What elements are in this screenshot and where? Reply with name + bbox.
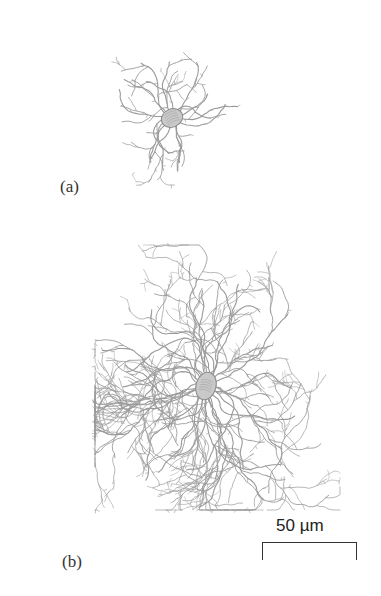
dendrite-branch — [120, 296, 127, 300]
dendrite-branch — [155, 152, 163, 180]
dendrite-branch — [142, 245, 188, 251]
dendrite-branch — [173, 404, 181, 406]
scale-bar-label: 50 µm — [276, 516, 324, 536]
dendrite-branch — [129, 308, 148, 319]
dendrite-branch — [147, 318, 195, 342]
dendrite-branch — [150, 360, 171, 397]
dendrite-branch — [247, 397, 249, 399]
dendrite-branch — [323, 481, 325, 483]
dendrite-branch — [179, 456, 182, 457]
dendrite-branch — [225, 499, 262, 510]
dendrite-branch — [245, 389, 246, 401]
dendrite-branch — [175, 125, 181, 172]
scale-bar — [262, 542, 357, 560]
dendrite-branch — [179, 277, 194, 280]
dendrite-branch — [339, 478, 340, 482]
dendrite-branch — [132, 175, 136, 182]
dendrite-branch — [179, 135, 191, 137]
dendrite-branch — [269, 439, 321, 450]
dendrite-branch — [180, 313, 190, 319]
dendrite-branch — [278, 413, 285, 439]
dendrite-branch — [243, 322, 251, 344]
dendrite-branch — [317, 506, 340, 510]
dendrite-branch — [182, 272, 183, 275]
dendrite-branch — [149, 464, 160, 485]
dendrite-branch — [144, 283, 145, 291]
dendrite-branch — [163, 165, 166, 166]
dendrite-branch — [169, 59, 192, 66]
dendrite-branch — [181, 245, 207, 282]
dendrite-branch — [229, 348, 235, 353]
dendrite-branch — [122, 116, 152, 123]
dendrite-branch — [197, 83, 205, 85]
dendrite-branch — [258, 272, 270, 274]
dendrite-branch — [178, 269, 179, 277]
dendrite-branch — [95, 457, 102, 500]
dendrite-branch — [140, 282, 148, 284]
dendrite-branch — [286, 359, 310, 400]
dendrite-branch — [153, 246, 158, 257]
dendrite-branch — [229, 473, 238, 503]
dendrite-branch — [208, 501, 242, 506]
dendrite-branch — [182, 255, 189, 259]
dendrite-branch — [95, 340, 96, 355]
dendrite-branch — [185, 466, 186, 469]
dendrite-branch — [335, 471, 340, 474]
dendrite-branch — [225, 470, 227, 472]
dendrite-branch — [167, 277, 181, 291]
dendrite-branch — [282, 423, 296, 446]
dendrite-branch — [145, 279, 167, 295]
dendrite-branch — [174, 510, 175, 513]
dendrite-branch — [157, 491, 163, 497]
dendrite-branch — [104, 489, 107, 490]
dendrite-branch — [249, 510, 250, 513]
dendrite-branch — [209, 306, 259, 376]
dendrite-branch — [144, 396, 155, 426]
dendrite-branch — [289, 487, 305, 509]
dendrite-branch — [225, 275, 237, 278]
dendrite-branch — [179, 493, 180, 496]
dendrite-branch — [190, 263, 204, 306]
dendrite-branch — [92, 366, 95, 367]
dendrite-branch — [161, 71, 165, 78]
dendrite-branch — [281, 479, 326, 488]
dendrite-branch — [193, 344, 196, 379]
dendrite-branch — [240, 415, 282, 423]
dendrite-branch — [268, 252, 276, 270]
dendrite-branch — [148, 326, 167, 330]
dendrite-branch — [190, 135, 193, 136]
dendrite-branch — [276, 283, 289, 318]
dendrite-branch — [178, 299, 180, 323]
dendrite-branch — [222, 310, 256, 317]
neuron-figure — [0, 0, 381, 596]
dendrite-branch — [171, 273, 173, 285]
dendrite-branch — [171, 502, 174, 503]
dendrite-branch — [121, 66, 144, 72]
panel-label-a: (a) — [60, 178, 79, 195]
dendrite-branch — [160, 145, 173, 152]
dendrite-branch — [149, 357, 150, 360]
dendrite-branch — [131, 142, 153, 149]
dendrite-branch — [140, 443, 157, 460]
dendrite-branch — [166, 310, 201, 340]
dendrite-branch — [289, 485, 290, 488]
dendrite-branch — [177, 91, 185, 100]
dendrite-branch — [95, 433, 128, 454]
dendrite-branch — [185, 497, 192, 507]
dendrite-branch — [181, 507, 188, 510]
dendrite-branch — [160, 177, 174, 185]
dendrite-branch — [206, 476, 228, 510]
dendrite-branch — [187, 85, 196, 93]
dendrite-branch — [127, 449, 134, 459]
dendrite-branch — [113, 454, 115, 489]
dendrite-branch — [223, 282, 226, 283]
neuron-b-drawing — [92, 243, 340, 513]
dendrite-branch — [171, 272, 179, 273]
dendrite-branch — [95, 354, 98, 369]
dendrite-branch — [234, 310, 235, 313]
dendrite-branch — [239, 394, 269, 399]
dendrite-branch — [146, 421, 158, 422]
dendrite-branch — [256, 446, 258, 449]
dendrite-branch — [287, 399, 288, 402]
dendrite-branch — [168, 478, 171, 489]
